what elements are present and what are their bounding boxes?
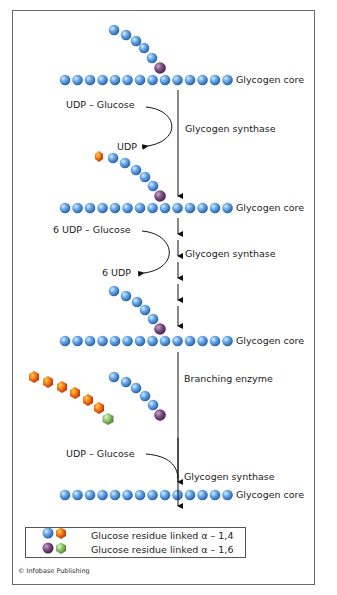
step1-product-label: UDP — [117, 142, 137, 152]
glycogen-core-chain-3 — [60, 336, 233, 347]
branch-chain-4-orange — [29, 371, 104, 414]
cofactor-curve-4 — [146, 454, 178, 478]
legend-label-alpha-1-4: Glucose residue linked α – 1,4 — [91, 530, 233, 541]
step4-enzyme-label: Glycogen synthase — [184, 472, 275, 482]
core-label-2: Glycogen core — [236, 203, 304, 213]
step2-enzyme-label: Glycogen synthase — [185, 249, 276, 259]
cofactor-curve-2 — [142, 231, 169, 273]
core-label-3: Glycogen core — [236, 336, 304, 346]
glycogen-core-chain-4 — [60, 490, 233, 501]
copyright-credit: © Infobase Publishing — [18, 567, 90, 575]
legend-label-alpha-1-6: Glucose residue linked α – 1,6 — [91, 544, 233, 555]
step1-substrate-label: UDP – Glucose — [66, 100, 135, 110]
legend: Glucose residue linked α – 1,4 Glucose r… — [25, 527, 246, 558]
cofactor-curve-1 — [146, 107, 172, 146]
step1-enzyme-label: Glycogen synthase — [185, 124, 276, 134]
step4-substrate-label: UDP – Glucose — [66, 449, 135, 459]
step2-substrate-label: 6 UDP – Glucose — [53, 225, 131, 235]
step3-enzyme-label: Branching enzyme — [184, 374, 273, 384]
branch-point-green — [103, 413, 114, 425]
step2-product-label: 6 UDP — [102, 268, 131, 278]
glycogen-core-chain-1 — [60, 75, 233, 86]
glycogen-synthesis-diagram — [0, 0, 337, 595]
glycogen-core-chain-2 — [60, 203, 233, 214]
branch-chain-4-blue — [109, 372, 166, 421]
core-label-4: Glycogen core — [236, 490, 304, 500]
branch-chain-1 — [109, 25, 166, 74]
branch-chain-2 — [95, 151, 166, 202]
branch-chain-3 — [109, 286, 166, 335]
core-label-1: Glycogen core — [236, 75, 304, 85]
